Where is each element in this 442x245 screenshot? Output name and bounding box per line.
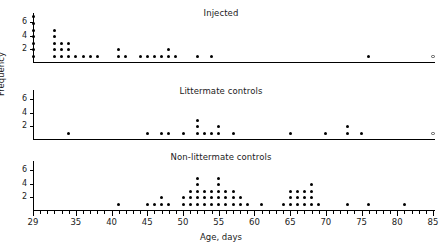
data-point: [289, 203, 292, 206]
data-point: [124, 55, 127, 58]
x-axis-minor-tick: [269, 211, 270, 214]
x-axis-minor-tick: [304, 211, 305, 214]
data-point: [153, 55, 156, 58]
data-point: [217, 125, 220, 128]
data-point: [167, 55, 170, 58]
data-point: [53, 35, 56, 38]
y-axis-tick: [30, 113, 33, 114]
data-point: [232, 132, 235, 135]
x-axis-minor-tick: [247, 211, 248, 214]
x-axis-minor-tick: [369, 211, 370, 214]
x-axis-major-tick: [112, 211, 113, 216]
data-point: [89, 55, 92, 58]
data-point: [203, 203, 206, 206]
data-point: [289, 196, 292, 199]
data-point: [310, 190, 313, 193]
data-point: [232, 196, 235, 199]
data-point: [32, 22, 35, 25]
data-point: [317, 203, 320, 206]
data-point: [196, 190, 199, 193]
data-point: [117, 203, 120, 206]
data-point: [67, 55, 70, 58]
data-point: [296, 203, 299, 206]
data-point: [189, 203, 192, 206]
y-axis-tick-label: 4: [13, 32, 27, 40]
x-axis-tick-label: 45: [134, 218, 160, 227]
x-axis-major-tick: [433, 211, 434, 216]
y-axis-tick-label: 4: [13, 180, 27, 188]
x-axis-minor-tick: [119, 211, 120, 214]
x-axis-minor-tick: [90, 211, 91, 214]
x-axis-minor-tick: [297, 211, 298, 214]
x-axis-major-tick: [33, 211, 34, 216]
x-axis-minor-tick: [212, 211, 213, 214]
data-point: [32, 42, 35, 45]
data-point: [196, 125, 199, 128]
data-point: [296, 196, 299, 199]
x-axis-minor-tick: [404, 211, 405, 214]
data-point: [303, 196, 306, 199]
x-axis-minor-tick: [204, 211, 205, 214]
x-axis-tick-label: 65: [277, 218, 303, 227]
data-point: [289, 132, 292, 135]
data-point: [67, 132, 70, 135]
data-point: [282, 203, 285, 206]
data-point: [217, 132, 220, 135]
x-axis-line: [33, 210, 435, 211]
data-point: [346, 203, 349, 206]
x-axis-minor-tick: [197, 211, 198, 214]
data-point: [53, 55, 56, 58]
x-axis-minor-tick: [333, 211, 334, 214]
data-point: [203, 132, 206, 135]
data-point: [196, 55, 199, 58]
x-axis-minor-tick: [176, 211, 177, 214]
data-point: [53, 29, 56, 32]
data-point: [310, 183, 313, 186]
y-axis-tick-label: 4: [13, 109, 27, 117]
data-point: [303, 190, 306, 193]
x-axis-tick-label: 80: [384, 218, 410, 227]
data-point: [260, 203, 263, 206]
data-point: [146, 203, 149, 206]
data-point: [210, 196, 213, 199]
data-point: [182, 203, 185, 206]
x-axis-minor-tick: [276, 211, 277, 214]
data-point: [196, 183, 199, 186]
data-point: [310, 203, 313, 206]
data-point: [224, 190, 227, 193]
x-axis-minor-tick: [354, 211, 355, 214]
y-axis-tick-label: 6: [13, 166, 27, 174]
x-axis-minor-tick: [83, 211, 84, 214]
x-axis-major-tick: [362, 211, 363, 216]
censored-marker: [431, 55, 435, 59]
x-axis-minor-tick: [169, 211, 170, 214]
data-point: [360, 132, 363, 135]
x-axis-major-tick: [326, 211, 327, 216]
y-axis-tick-label: 6: [13, 18, 27, 26]
panel-title: Injected: [0, 8, 442, 18]
y-axis-tick: [30, 184, 33, 185]
data-point: [82, 55, 85, 58]
x-axis-line: [33, 139, 435, 140]
x-axis-minor-tick: [126, 211, 127, 214]
y-axis-tick-label: 2: [13, 122, 27, 130]
data-point: [146, 132, 149, 135]
data-point: [210, 190, 213, 193]
data-point: [60, 42, 63, 45]
data-point: [32, 55, 35, 58]
y-axis-line: [33, 90, 34, 139]
x-axis-major-tick: [76, 211, 77, 216]
data-point: [32, 29, 35, 32]
data-point: [289, 190, 292, 193]
x-axis-major-tick: [254, 211, 255, 216]
x-axis-minor-tick: [240, 211, 241, 214]
data-point: [310, 196, 313, 199]
data-point: [182, 196, 185, 199]
data-point: [239, 196, 242, 199]
data-point: [167, 203, 170, 206]
data-point: [117, 55, 120, 58]
x-axis-minor-tick: [47, 211, 48, 214]
data-point: [367, 203, 370, 206]
x-axis-minor-tick: [340, 211, 341, 214]
y-axis-tick-label: 6: [13, 95, 27, 103]
